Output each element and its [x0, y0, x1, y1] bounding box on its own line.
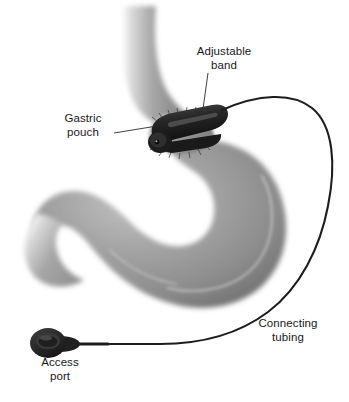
gastric-band-diagram: Adjustable band Gastric pouch Connecting… — [0, 0, 349, 402]
label-gastric-pouch: Gastric pouch — [52, 112, 114, 139]
access-port — [30, 328, 80, 358]
label-connecting-tubing: Connecting tubing — [240, 317, 336, 344]
leader-line-adjustable-band — [203, 73, 208, 109]
label-access-port: Access port — [26, 356, 94, 383]
label-adjustable-band: Adjustable band — [179, 45, 269, 72]
